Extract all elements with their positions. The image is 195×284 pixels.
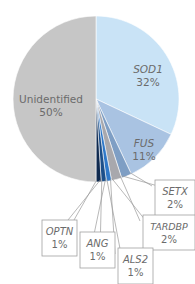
callout-value-ang: 1% — [90, 251, 106, 262]
slice-value-fus: 11% — [132, 150, 155, 162]
callout-line-tardbp — [112, 178, 146, 221]
slice-value-sod1: 32% — [136, 76, 159, 88]
pie-chart: SOD132%FUS11%Unidentified50% SETX2%TARDB… — [0, 0, 195, 284]
callout-value-als2: 1% — [128, 267, 144, 278]
slice-label-sod1: SOD1 — [133, 63, 163, 75]
callout-label-optn: OPTN — [46, 226, 74, 237]
callout-value-setx: 2% — [167, 199, 183, 210]
callout-boxes: SETX2%TARDBP2%ALS21%ANG1%OPTN1% — [42, 180, 195, 284]
callout-label-ang: ANG — [85, 238, 108, 249]
callout-label-als2: ALS2 — [122, 254, 148, 265]
callout-line-tardbp — [120, 176, 140, 221]
callout-line-ang — [95, 179, 106, 232]
callout-label-tardbp: TARDBP — [150, 221, 188, 232]
slice-label-unidentified: Unidentified — [19, 93, 83, 105]
callout-label-setx: SETX — [162, 186, 189, 197]
slice-value-unidentified: 50% — [39, 106, 62, 118]
slice-label-fus: FUS — [134, 137, 155, 149]
callout-value-tardbp: 2% — [161, 234, 177, 245]
callout-line-setx — [122, 176, 158, 186]
callout-line-optn — [68, 180, 100, 220]
callout-line-ang — [101, 180, 102, 232]
callout-line-optn — [74, 180, 97, 220]
callout-value-optn: 1% — [52, 239, 68, 250]
